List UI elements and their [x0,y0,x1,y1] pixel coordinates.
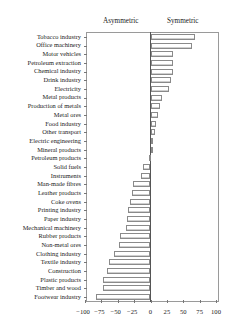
y-tick [84,37,87,38]
category-label: Electricity [54,85,81,93]
y-tick [84,228,87,229]
y-tick [84,236,87,237]
category-label: Footwear industry [34,293,81,301]
category-label: Motor vehicles [42,50,81,58]
x-tick-label: −50 [111,308,121,315]
y-tick [84,54,87,55]
bar [103,285,150,291]
y-tick [84,262,87,263]
category-label: Office machinery [36,41,81,49]
bar [151,129,156,135]
bar [127,216,151,222]
category-label: Printing industry [38,206,81,214]
category-label: Drink industry [44,76,81,84]
bar [133,181,150,187]
category-label: Man-made fibres [37,180,81,188]
category-label: Construction [48,267,81,275]
bar [96,294,150,300]
y-tick [84,72,87,73]
bar [119,242,150,248]
bar [151,147,153,153]
bar [151,86,169,92]
bar [151,112,158,118]
category-label: Rubber products [39,232,81,240]
y-tick [84,176,87,177]
bar [132,190,150,196]
x-tick-label: −100 [76,308,90,315]
bar [141,173,151,179]
bar [128,207,151,213]
bar [151,138,153,144]
y-tick [84,280,87,281]
x-tick [85,300,86,303]
y-tick [84,271,87,272]
y-tick [84,184,87,185]
x-tick [216,300,217,303]
y-tick [84,63,87,64]
y-tick [84,210,87,211]
bar [151,95,163,101]
category-label: Plastic products [40,276,81,284]
x-tick [167,300,168,303]
y-tick [84,89,87,90]
category-label: Solid fuels [53,163,81,171]
category-label: Chemical industry [34,67,81,75]
x-tick [200,300,201,303]
x-tick-label: 0 [149,308,152,315]
category-label: Non-metal ores [41,241,81,249]
bar [151,43,192,49]
category-label: Leather products [38,189,81,197]
x-tick [183,300,184,303]
y-tick [84,124,87,125]
bar [120,233,150,239]
diverging-bar-chart: Asymmetric Symmetric Tobacco industryOff… [0,0,240,324]
x-tick-label: 75 [196,308,203,315]
y-tick [84,219,87,220]
y-tick [84,150,87,151]
y-tick [84,46,87,47]
x-tick [101,300,102,303]
category-label: Coke ovens [51,198,81,206]
category-label: Metal products [42,93,81,101]
header-symmetric: Symmetric [167,17,199,25]
bar [126,225,151,231]
category-label: Food industry [45,120,81,128]
x-tick [118,300,119,303]
y-tick [84,132,87,133]
category-label: Paper industry [44,215,81,223]
x-tick-label: 25 [164,308,171,315]
category-label: Other transport [42,128,81,136]
category-label: Production of metals [28,102,81,110]
bar [130,199,150,205]
bar [103,277,150,283]
y-tick [84,141,87,142]
category-label: Timber and wood [36,284,81,292]
header-asymmetric: Asymmetric [103,17,139,25]
bar [114,251,150,257]
bar [151,60,174,66]
y-tick [84,106,87,107]
bar [109,259,150,265]
category-label: Clothing industry [36,250,81,258]
bar [151,103,160,109]
category-label: Mechanical machinery [23,224,81,232]
y-tick [84,297,87,298]
category-label: Textile industry [41,258,81,266]
y-tick [84,167,87,168]
x-tick [134,300,135,303]
x-tick-label: −75 [94,308,104,315]
x-tick [151,300,152,303]
y-tick [84,288,87,289]
bar [107,268,150,274]
category-label: Instruments [51,172,81,180]
y-tick [84,245,87,246]
category-label: Tobacco industry [37,33,81,41]
category-label: Electric engineering [29,137,81,145]
bar [151,69,173,75]
bar [149,155,151,161]
x-tick-label: 50 [180,308,187,315]
y-tick [84,254,87,255]
y-tick [84,158,87,159]
bar [151,34,196,40]
bar [151,51,174,57]
